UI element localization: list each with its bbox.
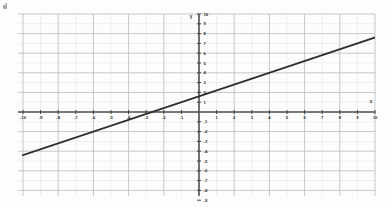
plot-background (18, 14, 375, 196)
x-tick-label: -7 (74, 115, 78, 120)
x-tick-label: -1 (180, 115, 184, 120)
x-tick-label: -8 (56, 115, 60, 120)
x-tick-label: -3 (144, 115, 148, 120)
x-tick-label: -2 (162, 115, 166, 120)
graph-figure: -10-9-8-7-6-5-4-3-2-112345678910-10-9-8-… (0, 0, 392, 207)
y-axis-label: y (190, 14, 193, 19)
y-tick-label: 10 (204, 12, 209, 17)
x-axis-label: x (370, 99, 373, 104)
coordinate-plane: -10-9-8-7-6-5-4-3-2-112345678910-10-9-8-… (0, 0, 392, 207)
x-tick-label: 10 (373, 115, 378, 120)
x-tick-label: -10 (20, 115, 27, 120)
y-tick-label: -9 (204, 198, 208, 203)
x-tick-label: -9 (39, 115, 43, 120)
x-tick-label: -6 (92, 115, 96, 120)
x-tick-label: -5 (109, 115, 113, 120)
